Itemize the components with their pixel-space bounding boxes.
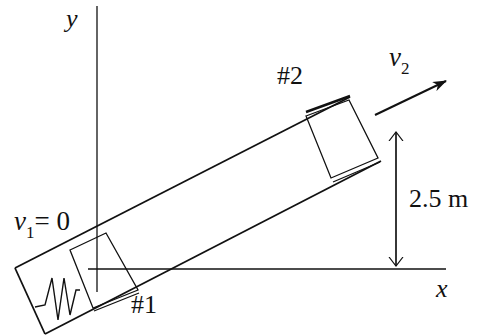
v1-symbol: v <box>14 206 26 236</box>
v2-symbol: v <box>389 42 401 72</box>
v1-equals-zero: = 0 <box>34 206 69 236</box>
diagram-svg <box>0 0 489 336</box>
spring <box>35 278 80 320</box>
v2-label: v2 <box>389 44 409 71</box>
v1-subscript: 1 <box>26 223 35 242</box>
v2-subscript: 2 <box>401 59 410 78</box>
v1-label: v1= 0 <box>14 208 70 235</box>
block-2-label: #2 <box>277 63 303 89</box>
velocity-arrow-v2 <box>375 81 446 115</box>
height-label: 2.5 m <box>409 186 468 212</box>
x-axis-label: x <box>436 276 448 302</box>
block-2 <box>306 96 380 182</box>
block-1-label: #1 <box>131 292 157 318</box>
y-axis-label: y <box>66 6 78 32</box>
diagram-canvas: y x v1= 0 v2 #1 #2 2.5 m <box>0 0 489 336</box>
block-1 <box>70 233 139 311</box>
